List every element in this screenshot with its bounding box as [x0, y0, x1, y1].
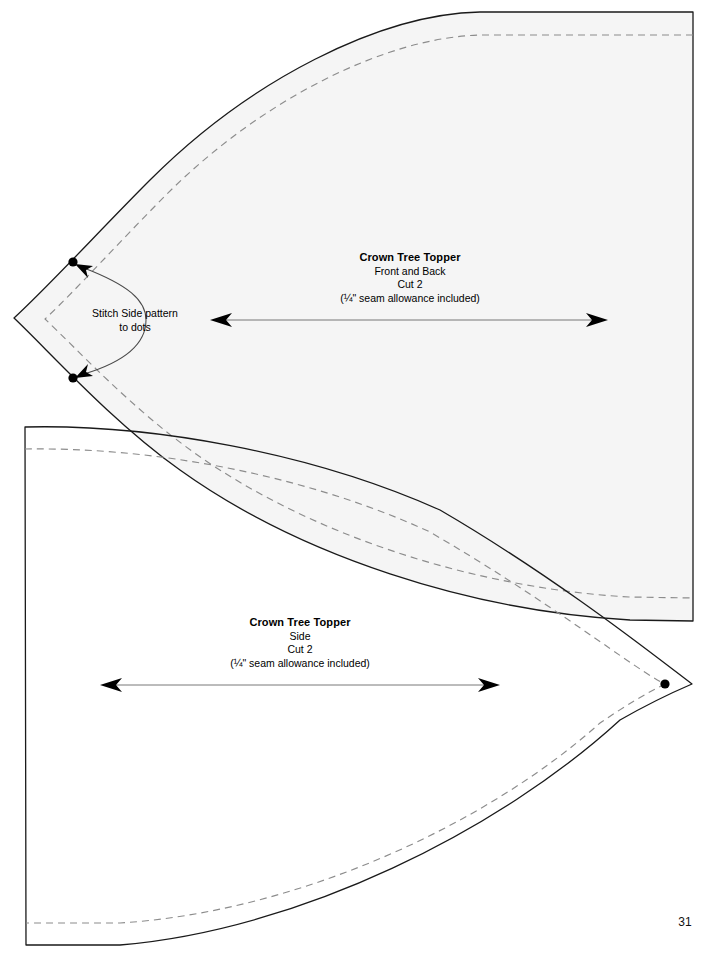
dot-marker-top — [68, 257, 77, 266]
page-number: 31 — [668, 915, 702, 929]
pattern-drawing-canvas — [0, 0, 714, 955]
piece-cut-front-back: Cut 2 — [240, 278, 580, 292]
stitch-note-line-1: Stitch Side pattern — [60, 307, 210, 321]
stitch-note-line-2: to dots — [60, 321, 210, 335]
grainline-arrow-side — [100, 678, 500, 692]
piece-note-front-back: (¼" seam allowance included) — [240, 292, 580, 306]
piece-title-front-back: Crown Tree Topper — [240, 250, 580, 265]
stitch-instruction-note: Stitch Side pattern to dots — [60, 307, 210, 335]
piece-cut-side: Cut 2 — [130, 643, 470, 657]
dot-marker-side-tip — [660, 679, 669, 688]
piece-title-side: Crown Tree Topper — [130, 615, 470, 630]
piece-label-side: Crown Tree Topper Side Cut 2 (¼" seam al… — [130, 615, 470, 671]
dot-marker-bottom — [68, 373, 77, 382]
pattern-sheet: Crown Tree Topper Front and Back Cut 2 (… — [0, 0, 714, 955]
piece-subtitle-side: Side — [130, 630, 470, 644]
piece-subtitle-front-back: Front and Back — [240, 265, 580, 279]
piece-note-side: (¼" seam allowance included) — [130, 657, 470, 671]
piece-label-front-back: Crown Tree Topper Front and Back Cut 2 (… — [240, 250, 580, 306]
